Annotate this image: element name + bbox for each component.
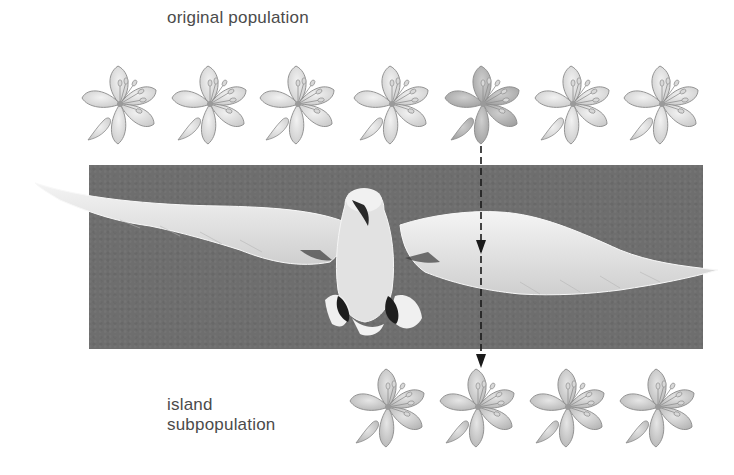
flower-icon (533, 62, 613, 146)
flower-icon (438, 365, 518, 449)
flower-icon (352, 62, 432, 146)
island-flower-3 (528, 365, 608, 449)
island-flower-2 (438, 365, 518, 449)
flower-icon (618, 365, 698, 449)
original-flower-2 (170, 62, 250, 146)
flower-icon (528, 365, 608, 449)
flower-icon (258, 62, 338, 146)
flower-icon (170, 62, 250, 146)
flower-icon (348, 365, 428, 449)
original-flower-5-migrant (443, 62, 523, 146)
original-flower-1 (80, 62, 160, 146)
island-flower-1 (348, 365, 428, 449)
original-flower-4 (352, 62, 432, 146)
island-label-line1: island (167, 395, 307, 415)
flower-icon (622, 62, 702, 146)
original-population-label: original population (167, 8, 309, 28)
flower-icon (443, 62, 523, 146)
original-flower-3 (258, 62, 338, 146)
original-flower-7 (622, 62, 702, 146)
island-flower-4 (618, 365, 698, 449)
island-subpopulation-label: island subpopulation (167, 395, 307, 435)
flower-icon (80, 62, 160, 146)
island-label-line2: subpopulation (167, 415, 307, 435)
sky-background-panel (89, 165, 703, 349)
original-flower-6 (533, 62, 613, 146)
